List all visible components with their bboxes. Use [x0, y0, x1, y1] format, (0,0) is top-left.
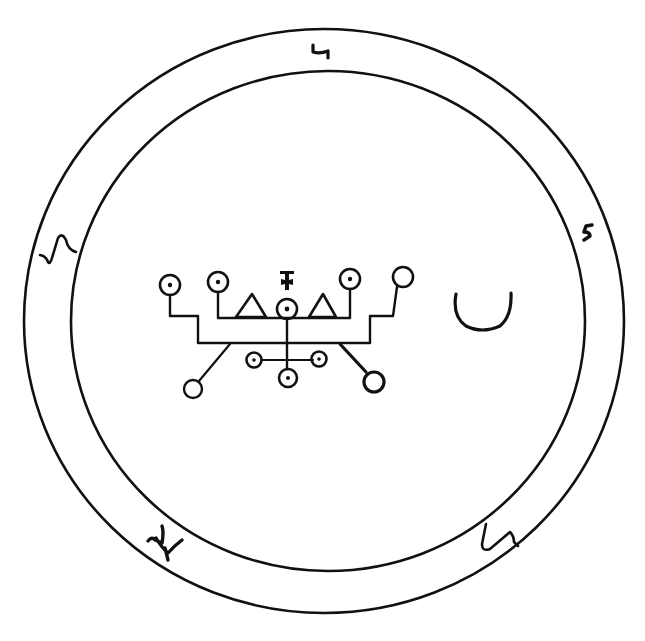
glyph-left-icon	[40, 235, 76, 262]
glyph-right-icon	[584, 225, 592, 240]
outer-ring	[24, 29, 624, 613]
seal-diagram	[0, 0, 645, 641]
sigil-leg-circle-left	[184, 380, 202, 398]
glyph-bottom-right-icon	[482, 524, 518, 550]
central-sigil	[160, 267, 413, 398]
glyph-top-icon	[313, 45, 328, 58]
sigil-circle-4	[393, 267, 413, 287]
sigil-triangle-right	[309, 294, 336, 317]
sigil-triangle-left	[236, 294, 266, 317]
sigil-leg-circle-right	[364, 372, 384, 392]
crescent-icon	[455, 293, 511, 330]
glyph-bottom-left-icon	[148, 526, 182, 560]
inner-ring	[71, 71, 585, 571]
cross-icon	[280, 271, 294, 290]
